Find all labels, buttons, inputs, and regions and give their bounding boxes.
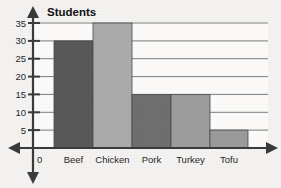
y-tick-label-20: 20 (15, 71, 26, 82)
y-tick-label-15: 15 (15, 89, 26, 100)
bar-beef[interactable] (54, 41, 93, 148)
bar-pork[interactable] (132, 94, 171, 148)
x-tick-label-beef: Beef (64, 154, 84, 165)
x-axis-left-arrowhead (8, 142, 20, 154)
bar-tofu[interactable] (210, 130, 248, 148)
y-axis-up-arrowhead (27, 6, 39, 18)
bar-turkey[interactable] (171, 94, 210, 148)
y-tick-label-0: 0 (37, 154, 42, 165)
x-axis-right-arrowhead (266, 142, 278, 154)
chart-canvas: 35 30 25 20 15 10 5 0 Beef Chicken Pork … (0, 0, 281, 188)
y-tick-label-5: 5 (21, 125, 26, 136)
x-tick-label-tofu: Tofu (220, 154, 238, 165)
y-tick-label-25: 25 (15, 53, 26, 64)
y-axis-down-arrowhead (27, 172, 39, 184)
bar-chicken[interactable] (93, 23, 132, 148)
y-tick-label-30: 30 (15, 35, 26, 46)
y-tick-label-10: 10 (15, 107, 26, 118)
x-tick-label-pork: Pork (142, 154, 162, 165)
x-tick-label-turkey: Turkey (176, 154, 205, 165)
x-tick-label-chicken: Chicken (95, 154, 129, 165)
chart-title: Students (47, 6, 96, 18)
y-tick-label-35: 35 (15, 18, 26, 29)
bar-chart: 35 30 25 20 15 10 5 0 Beef Chicken Pork … (0, 0, 281, 188)
